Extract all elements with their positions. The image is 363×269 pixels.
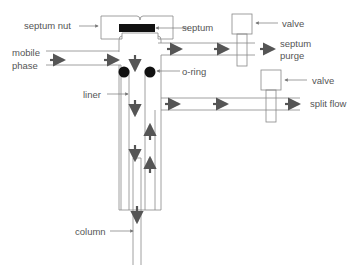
- o-ring-left: [119, 67, 130, 78]
- label-o-ring: o-ring: [182, 66, 206, 77]
- label-valve-bottom: valve: [312, 75, 334, 86]
- label-mobile-phase-1: mobile: [12, 47, 40, 58]
- label-mobile-phase-2: phase: [12, 60, 38, 71]
- label-septum-purge-2: purge: [280, 50, 304, 61]
- valve-top-stem: [237, 34, 247, 66]
- label-septum-nut: septum nut: [24, 20, 71, 31]
- valve-top-body: [232, 14, 252, 34]
- septum: [119, 24, 155, 32]
- label-septum-purge-1: septum: [280, 38, 311, 49]
- label-column: column: [75, 226, 106, 237]
- valve-bottom-stem: [266, 90, 276, 122]
- label-septum: septum: [182, 22, 213, 33]
- label-valve-top: valve: [282, 18, 304, 29]
- valve-bottom-body: [261, 70, 281, 90]
- o-ring-right: [145, 67, 156, 78]
- label-liner: liner: [83, 89, 101, 100]
- label-split-flow: split flow: [310, 98, 346, 109]
